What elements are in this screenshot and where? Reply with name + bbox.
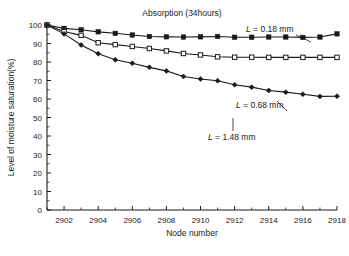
y-tick-label-30: 30 [33, 151, 42, 160]
y-tick-label-0: 0 [38, 206, 43, 215]
marker-0-17 [335, 32, 339, 36]
marker-2-13 [266, 88, 271, 93]
marker-2-15 [300, 92, 305, 97]
chart-figure: 0102030405060708090100290229042906290829… [0, 0, 349, 256]
series-line-0 [47, 25, 337, 37]
x-tick-label-2908: 2908 [158, 216, 176, 225]
marker-2-12 [249, 85, 254, 90]
marker-1-14 [284, 55, 288, 59]
label-l068: L = 0.68 mm [236, 100, 284, 110]
x-axis-label: Node number [166, 228, 218, 238]
marker-2-16 [317, 94, 322, 99]
marker-1-12 [250, 55, 254, 59]
x-tick-label-2910: 2910 [192, 216, 210, 225]
y-tick-label-100: 100 [29, 21, 43, 30]
marker-2-17 [335, 94, 340, 99]
marker-0-4 [113, 31, 117, 35]
marker-1-6 [147, 46, 151, 50]
marker-1-15 [301, 55, 305, 59]
marker-0-8 [181, 35, 185, 39]
marker-1-3 [96, 41, 100, 45]
y-tick-label-90: 90 [33, 40, 42, 49]
marker-2-3 [96, 51, 101, 56]
marker-0-12 [250, 35, 254, 39]
absorption-line-chart: 0102030405060708090100290229042906290829… [0, 0, 349, 256]
marker-2-5 [130, 61, 135, 66]
x-tick-label-2906: 2906 [123, 216, 141, 225]
x-tick-label-2902: 2902 [55, 216, 73, 225]
y-tick-label-10: 10 [33, 188, 42, 197]
y-tick-label-80: 80 [33, 58, 42, 67]
marker-2-6 [147, 65, 152, 70]
marker-0-9 [198, 35, 202, 39]
marker-0-13 [267, 35, 271, 39]
x-tick-label-2916: 2916 [294, 216, 312, 225]
marker-0-7 [164, 35, 168, 39]
marker-2-8 [181, 74, 186, 79]
marker-1-16 [318, 55, 322, 59]
marker-0-11 [232, 35, 236, 39]
x-tick-label-2904: 2904 [89, 216, 107, 225]
marker-2-14 [283, 90, 288, 95]
marker-0-14 [284, 35, 288, 39]
marker-1-17 [335, 55, 339, 59]
marker-1-9 [198, 53, 202, 57]
label-l018: L = 0.18 mm [246, 24, 294, 34]
marker-1-5 [130, 44, 134, 48]
marker-1-8 [181, 51, 185, 55]
series-line-2 [47, 25, 337, 96]
chart-title: Absorption (34hours) [142, 8, 222, 18]
y-tick-label-40: 40 [33, 132, 42, 141]
series-line-1 [47, 25, 337, 57]
marker-2-11 [232, 82, 237, 87]
y-tick-label-50: 50 [33, 114, 42, 123]
marker-0-6 [147, 34, 151, 38]
marker-2-7 [164, 68, 169, 73]
marker-1-4 [113, 42, 117, 46]
y-tick-label-60: 60 [33, 95, 42, 104]
label-l148: L = 1.48 mm [208, 132, 256, 142]
marker-2-9 [198, 77, 203, 82]
marker-1-11 [232, 55, 236, 59]
y-tick-label-70: 70 [33, 77, 42, 86]
marker-2-4 [113, 57, 118, 62]
marker-1-2 [79, 33, 83, 37]
y-tick-label-20: 20 [33, 169, 42, 178]
marker-0-3 [96, 30, 100, 34]
x-tick-label-2912: 2912 [226, 216, 244, 225]
marker-0-16 [318, 35, 322, 39]
marker-0-5 [130, 33, 134, 37]
marker-1-13 [267, 55, 271, 59]
marker-1-10 [215, 55, 219, 59]
marker-0-10 [215, 34, 219, 38]
marker-1-7 [164, 49, 168, 53]
marker-0-2 [79, 28, 83, 32]
y-axis-label: Level of moisture saturation(%) [6, 59, 16, 177]
marker-2-10 [215, 78, 220, 83]
x-tick-label-2914: 2914 [260, 216, 278, 225]
x-tick-label-2918: 2918 [328, 216, 346, 225]
